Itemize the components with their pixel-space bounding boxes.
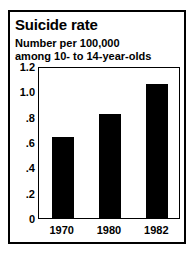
bar-1982 bbox=[146, 84, 168, 218]
y-tick-label-1.2: 1.2 bbox=[0, 62, 35, 73]
x-tick-label-1970: 1970 bbox=[40, 224, 84, 236]
x-tick-label-1980: 1980 bbox=[87, 224, 131, 236]
y-axis-tick-labels: 0.2.4.6.81.01.2 bbox=[0, 60, 35, 226]
plot-area bbox=[39, 68, 179, 218]
chart-subtitle-line-1: Number per 100,000 bbox=[15, 37, 151, 50]
bar-1980 bbox=[99, 114, 121, 218]
y-tick-label-.2: .2 bbox=[0, 189, 35, 200]
y-tick-label-0: 0 bbox=[0, 214, 35, 225]
x-tick-label-1982: 1982 bbox=[134, 224, 178, 236]
chart-title: Suicide rate bbox=[15, 16, 98, 33]
chart-subtitle-line-2: among 10- to 14-year-olds bbox=[15, 50, 151, 63]
y-tick-label-.8: .8 bbox=[0, 113, 35, 124]
plot-frame bbox=[38, 67, 180, 219]
chart-subtitle: Number per 100,000 among 10- to 14-year-… bbox=[15, 37, 151, 63]
y-tick-label-1.0: 1.0 bbox=[0, 87, 35, 98]
x-axis-tick-labels: 197019801982 bbox=[38, 224, 180, 240]
chart-figure: Suicide rate Number per 100,000 among 10… bbox=[0, 0, 194, 254]
bar-1970 bbox=[52, 137, 74, 218]
y-tick-label-.4: .4 bbox=[0, 163, 35, 174]
y-tick-label-.6: .6 bbox=[0, 138, 35, 149]
